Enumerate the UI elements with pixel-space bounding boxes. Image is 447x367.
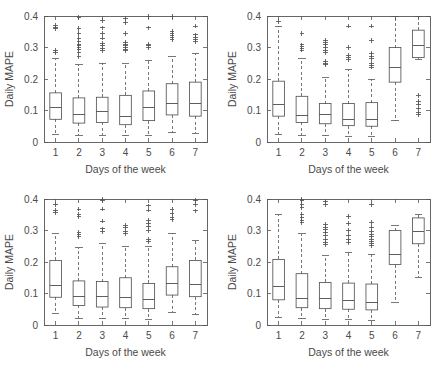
y-tick-label: 0.2 bbox=[24, 74, 38, 85]
boxplot-panel-bottom-right: 00.10.20.30.41234567Days of the weekDail… bbox=[223, 183, 446, 366]
caption-fragment bbox=[0, 355, 447, 367]
box-rect bbox=[296, 96, 308, 122]
x-tick-label: 3 bbox=[322, 330, 328, 341]
y-tick-label: 0.2 bbox=[24, 257, 38, 268]
x-tick-label: 3 bbox=[322, 147, 328, 158]
x-tick-label: 4 bbox=[346, 330, 352, 341]
plot-area-top-left: 00.10.20.30.41234567Days of the weekDail… bbox=[0, 0, 223, 183]
box-rect bbox=[143, 91, 155, 121]
box-group bbox=[166, 14, 178, 132]
box-rect bbox=[120, 95, 132, 124]
box-group bbox=[389, 226, 401, 303]
box-group bbox=[96, 197, 108, 318]
x-tick-label: 6 bbox=[169, 330, 175, 341]
x-tick-label: 2 bbox=[76, 147, 82, 158]
box-rect bbox=[343, 283, 355, 309]
box-group bbox=[389, 17, 401, 121]
x-tick-label: 1 bbox=[276, 147, 282, 158]
box-group bbox=[366, 202, 378, 320]
box-group bbox=[50, 202, 62, 313]
x-tick-label: 1 bbox=[53, 147, 59, 158]
box-group bbox=[343, 24, 355, 137]
box-group bbox=[319, 38, 331, 136]
box-group bbox=[120, 16, 132, 136]
box-group bbox=[366, 24, 378, 137]
y-tick-label: 0.3 bbox=[247, 225, 261, 236]
x-tick-label: 1 bbox=[53, 330, 59, 341]
box-rect bbox=[190, 82, 202, 116]
box-group bbox=[143, 204, 155, 320]
box-rect bbox=[50, 93, 62, 119]
y-axis-label: Daily MAPE bbox=[226, 234, 238, 290]
x-tick-label: 3 bbox=[99, 147, 105, 158]
box-group bbox=[273, 215, 285, 317]
box-group bbox=[296, 31, 308, 135]
y-axis-label: Daily MAPE bbox=[226, 51, 238, 107]
y-tick-label: 0.1 bbox=[247, 288, 261, 299]
box-group bbox=[413, 17, 425, 117]
x-tick-label: 7 bbox=[416, 147, 422, 158]
x-tick-label: 4 bbox=[123, 147, 129, 158]
box-rect bbox=[366, 103, 378, 127]
y-axis-label: Daily MAPE bbox=[3, 51, 15, 107]
x-tick-label: 5 bbox=[146, 330, 152, 341]
y-tick-label: 0.4 bbox=[247, 194, 261, 205]
x-tick-label: 2 bbox=[299, 147, 305, 158]
box-group bbox=[143, 14, 155, 135]
box-rect bbox=[413, 30, 425, 57]
x-tick-label: 6 bbox=[392, 147, 398, 158]
box-rect bbox=[296, 274, 308, 308]
box-rect bbox=[50, 260, 62, 297]
x-tick-label: 5 bbox=[369, 330, 375, 341]
y-tick-label: 0 bbox=[255, 137, 261, 148]
y-tick-label: 0.4 bbox=[247, 11, 261, 22]
box-rect bbox=[343, 104, 355, 126]
x-tick-label: 7 bbox=[416, 330, 422, 341]
box-rect bbox=[73, 281, 85, 306]
x-tick-label: 5 bbox=[369, 147, 375, 158]
box-rect bbox=[389, 231, 401, 265]
box-group bbox=[73, 15, 85, 135]
x-tick-label: 6 bbox=[169, 147, 175, 158]
x-tick-label: 7 bbox=[193, 330, 199, 341]
box-rect bbox=[366, 284, 378, 310]
box-group bbox=[319, 199, 331, 319]
y-tick-label: 0.4 bbox=[24, 11, 38, 22]
y-tick-label: 0.3 bbox=[24, 225, 38, 236]
box-group bbox=[96, 18, 108, 135]
box-rect bbox=[73, 98, 85, 123]
boxplot-panel-top-left: 00.10.20.30.41234567Days of the weekDail… bbox=[0, 0, 223, 183]
x-tick-label: 5 bbox=[146, 147, 152, 158]
y-tick-label: 0.1 bbox=[247, 105, 261, 116]
x-tick-label: 6 bbox=[392, 330, 398, 341]
x-axis-label: Days of the week bbox=[308, 163, 389, 175]
box-rect bbox=[319, 282, 331, 308]
boxplot-panel-bottom-left: 00.10.20.30.41234567Days of the weekDail… bbox=[0, 183, 223, 366]
y-tick-label: 0.2 bbox=[247, 74, 261, 85]
box-rect bbox=[319, 104, 331, 124]
plot-area-bottom-left: 00.10.20.30.41234567Days of the weekDail… bbox=[0, 183, 223, 366]
box-rect bbox=[389, 48, 401, 83]
x-tick-label: 7 bbox=[193, 147, 199, 158]
plot-area-bottom-right: 00.10.20.30.41234567Days of the weekDail… bbox=[223, 183, 446, 366]
box-rect bbox=[143, 283, 155, 308]
box-rect bbox=[273, 81, 285, 116]
box-rect bbox=[166, 84, 178, 115]
box-rect bbox=[120, 278, 132, 308]
y-tick-label: 0.3 bbox=[247, 42, 261, 53]
box-rect bbox=[273, 259, 285, 299]
plot-area-top-right: 00.10.20.30.41234567Days of the weekDail… bbox=[223, 0, 446, 183]
y-axis-label: Daily MAPE bbox=[3, 234, 15, 290]
box-group bbox=[166, 207, 178, 313]
box-group bbox=[190, 24, 202, 133]
box-group bbox=[120, 223, 132, 318]
y-tick-label: 0 bbox=[32, 137, 38, 148]
box-rect bbox=[166, 267, 178, 295]
box-group bbox=[73, 207, 85, 318]
x-tick-label: 1 bbox=[276, 330, 282, 341]
box-group bbox=[413, 214, 425, 277]
x-tick-label: 3 bbox=[99, 330, 105, 341]
boxplot-panel-top-right: 00.10.20.30.41234567Days of the weekDail… bbox=[223, 0, 446, 183]
y-tick-label: 0.4 bbox=[24, 194, 38, 205]
x-axis-label: Days of the week bbox=[85, 163, 166, 175]
